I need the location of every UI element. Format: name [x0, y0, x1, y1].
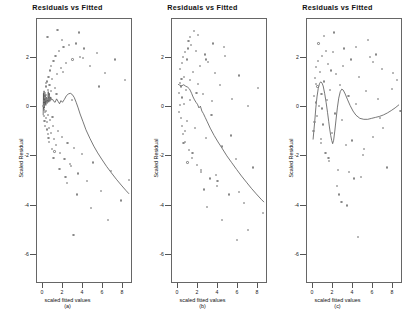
data-point [179, 82, 181, 84]
y-tick [300, 205, 306, 206]
data-point [236, 239, 238, 241]
x-tick [177, 283, 178, 288]
data-point [243, 202, 245, 204]
x-tick [257, 283, 258, 288]
data-point [330, 69, 332, 71]
y-tick-label: 0 [18, 103, 29, 109]
data-point [399, 110, 401, 112]
panel-b: Residuals vs Fitted Scaled Residual 20-2… [135, 0, 270, 315]
y-tick [30, 254, 36, 255]
x-tick [332, 283, 333, 288]
data-point [46, 101, 48, 103]
data-point [351, 139, 353, 141]
x-tick-label: 8 [256, 289, 259, 295]
data-point [336, 185, 338, 187]
data-point [338, 193, 340, 195]
data-point [320, 93, 322, 95]
data-point [98, 85, 100, 87]
data-point [214, 72, 216, 74]
data-point [42, 105, 44, 107]
data-point [334, 112, 336, 114]
x-tick-label: 2 [196, 289, 199, 295]
data-point [203, 188, 205, 190]
data-point [53, 150, 55, 152]
data-point [324, 152, 326, 154]
data-point [333, 31, 335, 33]
x-tick [102, 283, 103, 288]
data-point [52, 125, 54, 127]
data-point [199, 65, 201, 67]
data-point [326, 99, 328, 101]
data-point [327, 157, 329, 159]
data-point [343, 47, 345, 49]
data-point [350, 58, 352, 60]
data-point [92, 161, 94, 163]
y-tick [30, 106, 36, 107]
data-point [83, 47, 85, 49]
data-point [180, 78, 182, 80]
data-point [209, 177, 211, 179]
data-point [314, 77, 316, 79]
panel-c-loess-curve [307, 19, 401, 282]
data-point [205, 58, 207, 60]
data-point [340, 201, 342, 203]
data-point [346, 204, 348, 206]
data-point [72, 234, 74, 236]
x-tick-label: 4 [351, 289, 354, 295]
y-tick [165, 106, 171, 107]
data-point [62, 71, 64, 73]
data-point [75, 42, 77, 44]
data-point [78, 31, 80, 33]
data-point [216, 180, 218, 182]
x-tick-label: 2 [61, 289, 64, 295]
data-point [71, 58, 73, 60]
x-tick [217, 283, 218, 288]
data-point [386, 166, 388, 168]
data-point [187, 40, 189, 42]
panel-a-loess-curve [37, 19, 131, 282]
data-point [184, 130, 186, 132]
x-tick-label: 8 [391, 289, 394, 295]
data-point [54, 87, 56, 89]
y-tick [165, 254, 171, 255]
data-point [367, 39, 369, 41]
data-point [321, 107, 323, 109]
data-point [204, 53, 206, 55]
y-tick-label: -2 [153, 152, 164, 158]
y-tick [300, 106, 306, 107]
data-point [182, 56, 184, 58]
data-point [61, 39, 63, 41]
data-point [202, 93, 204, 95]
x-tick [62, 283, 63, 288]
data-point [57, 130, 59, 132]
data-point [114, 58, 116, 60]
y-tick [300, 254, 306, 255]
data-point [186, 58, 188, 60]
data-point [212, 42, 214, 44]
panel-a-letter: (a) [0, 303, 135, 309]
panel-c: Residuals vs Fitted Scaled Residual 20-2… [270, 0, 405, 315]
data-point [342, 65, 344, 67]
data-point [262, 212, 264, 214]
data-point [235, 158, 237, 160]
y-tick-label: 2 [288, 54, 299, 60]
data-point [187, 47, 189, 49]
x-tick-label: 0 [311, 289, 314, 295]
data-point [69, 163, 71, 165]
data-point [316, 115, 318, 117]
x-tick [352, 283, 353, 288]
data-point [215, 174, 217, 176]
data-point [183, 76, 185, 78]
x-tick-label: 6 [101, 289, 104, 295]
data-point [58, 168, 60, 170]
x-tick-label: 6 [371, 289, 374, 295]
data-point [341, 119, 343, 121]
data-point [210, 114, 212, 116]
data-point [49, 119, 51, 121]
x-tick-label: 2 [331, 289, 334, 295]
data-point [180, 85, 182, 87]
data-point [191, 152, 193, 154]
y-tick [30, 57, 36, 58]
data-point [252, 166, 254, 168]
x-tick [312, 283, 313, 288]
